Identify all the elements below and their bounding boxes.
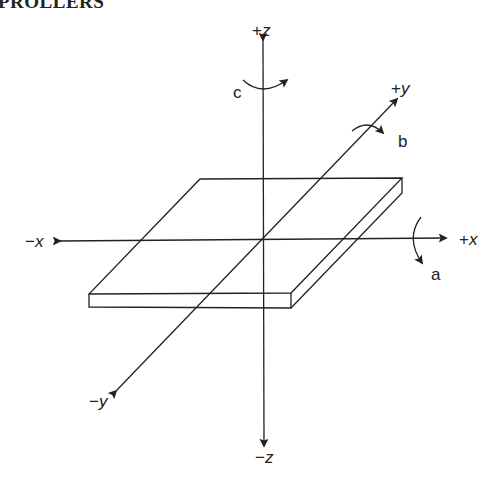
minus-x-label: −x: [25, 232, 44, 251]
rotation-c-arrow: [243, 80, 287, 89]
rotation-c-label: c: [233, 83, 242, 102]
rotation-a-arrow: [413, 217, 422, 263]
axes-diagram: +z −z +y −y +x −x c b a: [0, 0, 503, 482]
minus-z-label: −z: [255, 448, 274, 467]
plus-z-label: +z: [252, 21, 271, 40]
z-axis: [263, 40, 264, 446]
plus-y-label: +y: [391, 79, 411, 98]
rotation-a-label: a: [431, 265, 441, 284]
rotation-b-label: b: [398, 132, 407, 151]
plate: [89, 178, 402, 308]
minus-y-label: −y: [89, 392, 109, 411]
plus-x-label: +x: [459, 230, 478, 249]
